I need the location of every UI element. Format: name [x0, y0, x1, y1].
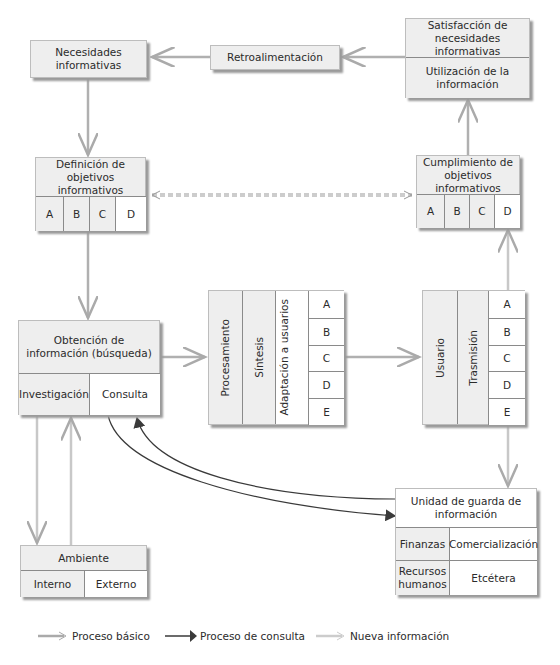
unidad-finanzas: Finanzas — [396, 527, 449, 560]
legend-basic: Proceso básico — [38, 630, 150, 642]
curve-consulta-to-unidad — [108, 415, 395, 516]
necesidades-label: Necesidades informativas — [31, 41, 146, 77]
usuario-cell-d: D — [488, 371, 525, 398]
trasmision-label: Trasmisión — [467, 330, 480, 386]
procesamiento-cell-a: A — [308, 291, 344, 318]
procesamiento-cell-d: D — [308, 371, 344, 398]
unidad-box: Unidad de guarda de información Finanzas… — [395, 488, 537, 595]
procesamiento-cell-e: E — [308, 398, 344, 425]
sintesis-col: Síntesis — [242, 291, 275, 424]
obtencion-consulta: Consulta — [89, 373, 160, 415]
legend-new-info: Nueva información — [316, 630, 449, 642]
cumplimiento-title: Cumplimiento de objetivos informativos — [417, 156, 519, 194]
legend-consult-label: Proceso de consulta — [200, 630, 305, 642]
definicion-cell-d: D — [115, 196, 146, 231]
usuario-cell-a: A — [488, 291, 525, 318]
legend-basic-label: Proceso básico — [72, 630, 150, 642]
procesamiento-cell-c: C — [308, 345, 344, 371]
usuario-cell-e: E — [488, 398, 525, 425]
new-info-arrow-icon — [316, 631, 346, 641]
unidad-etcetera: Etcétera — [449, 560, 537, 595]
definicion-cell-b: B — [63, 196, 89, 231]
retroalimentacion-label: Retroalimentación — [211, 46, 339, 69]
definicion-cell-a: A — [36, 196, 63, 231]
basic-arrow-icon — [38, 631, 68, 641]
cumplimiento-box: Cumplimiento de objetivos informativos A… — [416, 155, 520, 228]
cumplimiento-cell-c: C — [469, 194, 494, 228]
necesidades-box: Necesidades informativas — [30, 40, 147, 78]
satisfaccion-top: Satisfacción de necesidades informativas — [406, 19, 529, 57]
usuario-col: Usuario — [423, 291, 457, 424]
unidad-title: Unidad de guarda de información — [396, 489, 536, 527]
usuario-cell-b: B — [488, 318, 525, 345]
procesamiento-box: Procesamiento Síntesis Adaptación a usua… — [208, 290, 344, 425]
unidad-comercializacion: Comercialización — [449, 527, 537, 560]
legend-new-info-label: Nueva información — [350, 630, 449, 642]
ambiente-title: Ambiente — [21, 546, 146, 570]
procesamiento-col: Procesamiento — [209, 291, 242, 424]
ambiente-interno: Interno — [21, 570, 84, 597]
procesamiento-cell-b: B — [308, 318, 344, 345]
cumplimiento-cell-b: B — [444, 194, 469, 228]
definicion-cell-c: C — [89, 196, 115, 231]
satisfaccion-box: Satisfacción de necesidades informativas… — [405, 18, 530, 98]
adaptacion-label: Adaptación a usuarios — [278, 299, 306, 416]
ambiente-externo: Externo — [84, 570, 147, 597]
obtencion-box: Obtención de información (búsqueda) Inve… — [18, 320, 160, 415]
obtencion-investigacion: Investigación — [19, 373, 89, 415]
usuario-cell-c: C — [488, 345, 525, 371]
legend-consult: Proceso de consulta — [165, 630, 305, 642]
definicion-title: Definición de objetivos informativos — [36, 158, 145, 196]
ambiente-box: Ambiente Interno Externo — [20, 545, 147, 597]
procesamiento-label: Procesamiento — [219, 319, 232, 397]
definicion-box: Definición de objetivos informativos A B… — [35, 157, 146, 231]
unidad-recursos-humanos: Recursos humanos — [396, 560, 449, 595]
sintesis-label: Síntesis — [253, 337, 266, 378]
retroalimentacion-box: Retroalimentación — [210, 45, 340, 70]
curve-unidad-to-consulta — [137, 418, 395, 499]
adaptacion-col: Adaptación a usuarios — [275, 291, 308, 424]
trasmision-col: Trasmisión — [457, 291, 488, 424]
satisfaccion-bottom: Utilización de la información — [406, 57, 529, 98]
usuario-box: Usuario Trasmisión A B C D E — [422, 290, 525, 425]
cumplimiento-cell-a: A — [417, 194, 444, 228]
cumplimiento-cell-d: D — [494, 194, 520, 228]
usuario-label: Usuario — [434, 338, 447, 378]
consult-arrow-icon — [165, 630, 197, 642]
obtencion-title: Obtención de información (búsqueda) — [19, 321, 159, 373]
